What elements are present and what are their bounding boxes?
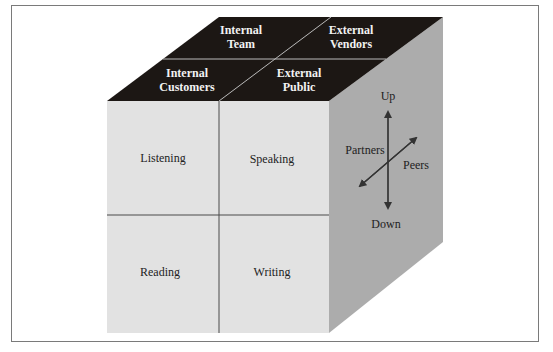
- front-cell-writing: Writing: [254, 266, 291, 280]
- front-cell-listening: Listening: [140, 152, 185, 166]
- label-line: External: [329, 24, 374, 38]
- label-partners: Partners: [345, 144, 384, 158]
- front-cell-speaking: Speaking: [250, 153, 295, 167]
- front-cell-reading: Reading: [140, 266, 180, 280]
- label-line: Internal: [220, 24, 262, 38]
- label-line: External: [277, 67, 322, 81]
- label-line: Customers: [159, 81, 214, 95]
- top-cell-internal-team: Internal Team: [220, 24, 262, 52]
- top-cell-external-public: External Public: [277, 67, 322, 95]
- label-line: Team: [220, 38, 262, 52]
- label-up: Up: [381, 90, 396, 104]
- top-cell-external-vendors: External Vendors: [329, 24, 374, 52]
- label-line: Public: [277, 81, 322, 95]
- cube-diagram: [0, 0, 553, 352]
- label-down: Down: [371, 218, 400, 232]
- label-peers: Peers: [403, 159, 429, 173]
- label-line: Vendors: [329, 38, 374, 52]
- label-line: Internal: [159, 67, 214, 81]
- top-cell-internal-customers: Internal Customers: [159, 67, 214, 95]
- front-face: [107, 101, 329, 333]
